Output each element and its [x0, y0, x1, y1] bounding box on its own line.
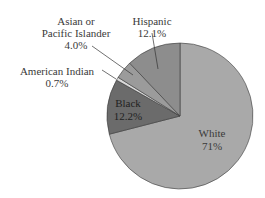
label-american-indian-name: American Indian	[20, 65, 95, 77]
label-white-name: White	[199, 127, 226, 139]
leader-line-asian	[92, 46, 133, 75]
label-american-indian-value: 0.7%	[46, 77, 69, 89]
label-white-value: 71%	[202, 140, 222, 152]
label-black-value: 12.2%	[114, 110, 142, 122]
label-hispanic-value: 12.1%	[138, 27, 166, 39]
label-asian-value: 4.0%	[65, 39, 88, 51]
pie-chart: Hispanic 12.1% Asian or Pacific Islander…	[0, 0, 265, 198]
label-asian-line1: Asian or	[57, 15, 95, 27]
label-asian-line2: Pacific Islander	[42, 27, 111, 39]
leader-line-american-indian	[102, 70, 116, 79]
label-black-name: Black	[115, 97, 141, 109]
label-hispanic-name: Hispanic	[132, 15, 171, 27]
